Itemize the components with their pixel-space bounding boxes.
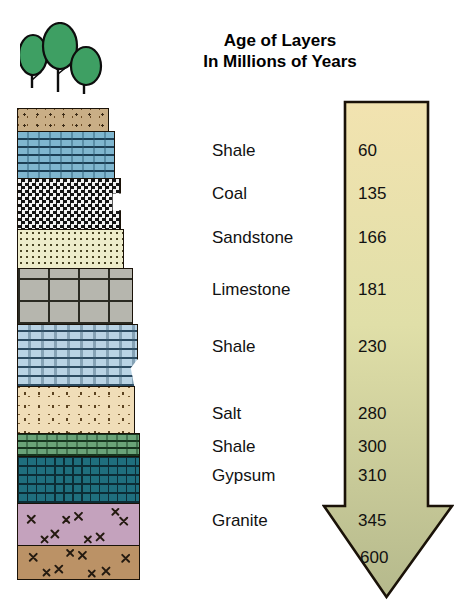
title-line-2: In Millions of Years <box>175 51 385 72</box>
layer-shale-230 <box>17 324 138 387</box>
age-arrow <box>322 100 454 600</box>
label-shale-230: Shale <box>212 337 255 357</box>
layer-granite-345 <box>17 503 140 546</box>
label-limestone-181: Limestone <box>212 280 290 300</box>
layer-shale-60 <box>17 131 115 179</box>
age-value-310: 310 <box>358 466 386 486</box>
layer-limestone-181 <box>17 268 133 325</box>
age-value-166: 166 <box>358 228 386 248</box>
age-value-181: 181 <box>358 280 386 300</box>
layer-coal-135 <box>17 178 121 230</box>
page-title: Age of Layers In Millions of Years <box>175 30 385 73</box>
age-value-345: 345 <box>358 511 386 531</box>
age-value-600: 600 <box>360 548 388 568</box>
layer-sandstone-166 <box>17 229 124 269</box>
age-value-60: 60 <box>358 141 377 161</box>
label-coal-135: Coal <box>212 184 247 204</box>
granite-x-marks-upper <box>18 504 139 546</box>
age-value-300: 300 <box>358 437 386 457</box>
label-sandstone-166: Sandstone <box>212 228 293 248</box>
age-value-280: 280 <box>358 404 386 424</box>
layer-gypsum-310 <box>17 456 140 504</box>
label-shale-300: Shale <box>212 437 255 457</box>
layer-topsoil <box>17 108 109 132</box>
label-gypsum-310: Gypsum <box>212 466 275 486</box>
label-shale-60: Shale <box>212 141 255 161</box>
age-value-135: 135 <box>358 184 386 204</box>
layer-shale-300 <box>17 433 140 457</box>
granite-x-marks-lower <box>18 546 139 580</box>
label-granite-345: Granite <box>212 511 268 531</box>
trees-illustration <box>20 22 112 112</box>
title-line-1: Age of Layers <box>175 30 385 51</box>
stratigraphic-column <box>17 108 140 580</box>
layer-salt-280 <box>17 386 135 434</box>
age-value-230: 230 <box>358 337 386 357</box>
label-salt-280: Salt <box>212 404 241 424</box>
layer-granite-600 <box>17 545 140 580</box>
